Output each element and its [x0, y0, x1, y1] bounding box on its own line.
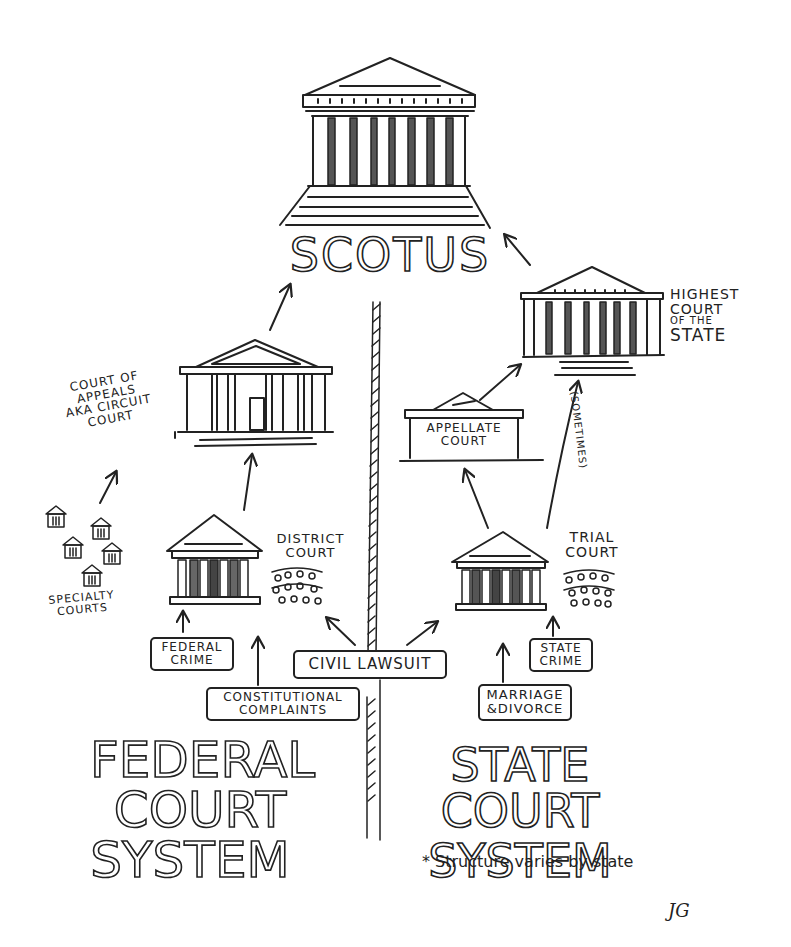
arrow-trial-to-appellate — [465, 470, 488, 528]
scotus-label: SCOTUS — [285, 232, 495, 278]
label-line: COURT — [562, 545, 622, 560]
arrow-civil-to-trial — [407, 622, 437, 645]
label-line: COMPLAINTS — [213, 704, 353, 717]
district-court-building-icon — [167, 515, 262, 604]
label-line: APPELLATE — [413, 422, 515, 435]
label-line: COURT — [268, 546, 353, 560]
specialty-courts-icon — [46, 506, 122, 586]
constitutional-complaints-box: CONSTITUTIONAL COMPLAINTS — [206, 687, 360, 721]
title-line: COURT — [110, 785, 290, 835]
arrow-appeals-to-scotus — [270, 285, 290, 330]
signature: JG — [668, 900, 690, 921]
trial-court-label: TRIAL COURT — [562, 530, 622, 559]
label-line: TRIAL — [562, 530, 622, 545]
label-line: COURT — [413, 435, 515, 448]
label-line: HIGHEST — [670, 287, 750, 302]
arrow-highest-to-scotus — [505, 235, 530, 265]
label-line: COURT — [670, 302, 750, 317]
arrow-district-to-appeals — [244, 455, 252, 510]
label-line: CRIME — [157, 654, 227, 667]
title-line: FEDERAL — [90, 735, 290, 785]
state-highest-court-building-icon — [521, 267, 664, 375]
label-line: DISTRICT — [268, 532, 353, 546]
appellate-court-label: APPELLATE COURT — [413, 422, 515, 447]
district-court-label: DISTRICT COURT — [268, 532, 353, 559]
court-of-appeals-building-icon — [175, 340, 333, 446]
arrow-appellate-to-highest — [480, 365, 520, 400]
civil-lawsuit-box: CIVIL LAWSUIT — [293, 650, 447, 679]
title-line: STATE COURT — [395, 742, 645, 834]
federal-crime-box: FEDERAL CRIME — [150, 637, 234, 671]
label-line: STATE — [670, 327, 750, 345]
arrow-civil-to-district — [327, 618, 355, 645]
marriage-divorce-box: MARRIAGE &DIVORCE — [478, 684, 572, 721]
label-line: &DIVORCE — [485, 702, 565, 716]
title-line: SYSTEM — [90, 835, 290, 885]
arrow-specialty-to-appeals — [100, 472, 116, 503]
label-line: CRIME — [536, 655, 586, 668]
district-court-jury-icon — [272, 568, 322, 604]
trial-court-building-icon — [452, 532, 548, 610]
state-crime-box: STATE CRIME — [529, 638, 593, 672]
system-divider — [367, 302, 380, 840]
scotus-building-icon — [280, 58, 490, 228]
footnote: * Structure varies by state — [422, 852, 722, 871]
highest-court-label: HIGHEST COURT OF THE STATE — [670, 287, 750, 345]
trial-court-jury-icon — [564, 570, 614, 607]
label-line: MARRIAGE — [485, 688, 565, 702]
federal-system-title: FEDERAL COURT SYSTEM — [90, 735, 290, 885]
